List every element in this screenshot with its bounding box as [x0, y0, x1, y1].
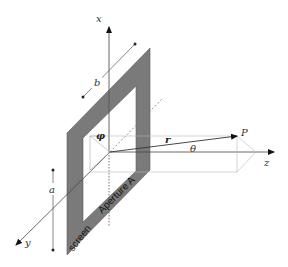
theta-label: θ — [190, 143, 196, 154]
point-p-label: P — [240, 127, 248, 138]
projection-box — [90, 136, 110, 170]
y-axis — [16, 152, 110, 245]
aperture-label: Aperture A — [96, 174, 137, 215]
r-vector — [110, 136, 237, 152]
opaque-screen — [67, 48, 150, 255]
x-axis-label: x — [96, 13, 102, 24]
b-dimension-label: b — [94, 77, 100, 88]
aperture-diagram: x y z P r θ φ b a Aperture A screen — [0, 0, 288, 267]
phi-label: φ — [96, 130, 105, 141]
a-dimension-label: a — [49, 184, 55, 195]
y-axis-label: y — [24, 237, 31, 248]
z-axis-label: z — [263, 157, 270, 168]
r-label: r — [165, 134, 171, 145]
guide-right — [237, 136, 256, 172]
